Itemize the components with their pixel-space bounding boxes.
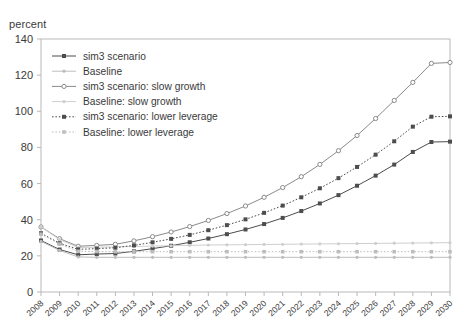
data-point-marker xyxy=(113,246,117,250)
data-point-marker xyxy=(411,150,415,154)
x-tick-label: 2023 xyxy=(303,298,324,318)
data-point-marker xyxy=(188,256,191,259)
data-point-marker xyxy=(281,185,285,189)
data-point-marker xyxy=(337,256,340,259)
data-point-marker xyxy=(429,140,433,144)
data-point-marker xyxy=(336,176,340,180)
legend-item-4[interactable]: Baseline: slow growth xyxy=(52,96,182,107)
data-point-marker xyxy=(58,249,61,252)
y-tick-label: 120 xyxy=(15,69,33,81)
data-point-marker xyxy=(336,149,340,153)
x-tick-label: 2024 xyxy=(322,298,343,318)
data-point-marker xyxy=(62,70,65,73)
x-tick-label: 2012 xyxy=(99,298,120,318)
data-point-marker xyxy=(188,250,192,254)
legend-item-3[interactable]: sim3 scenario: slow growth xyxy=(52,81,205,92)
data-point-marker xyxy=(318,242,321,245)
line-chart-plot: 020406080100120140 200820092010201120122… xyxy=(0,0,464,332)
x-tick-label: 2021 xyxy=(266,298,287,318)
data-point-marker xyxy=(188,244,191,247)
data-point-marker xyxy=(262,243,265,246)
chart-legend: sim3 scenarioBaselinesim3 scenario: slow… xyxy=(52,51,218,138)
data-point-marker xyxy=(448,140,452,144)
data-point-marker xyxy=(411,256,414,259)
legend-item-5[interactable]: sim3 scenario: lower leverage xyxy=(52,111,218,122)
x-tick-label: 2013 xyxy=(117,298,138,318)
data-point-marker xyxy=(374,116,378,120)
data-point-marker xyxy=(76,250,80,254)
x-tick-label: 2025 xyxy=(340,298,361,318)
x-tick-label: 2016 xyxy=(173,298,194,318)
data-point-marker xyxy=(95,256,98,259)
x-tick-label: 2030 xyxy=(433,298,454,318)
data-point-marker xyxy=(318,250,322,254)
legend-label: Baseline: slow growth xyxy=(83,96,182,107)
x-tick-label: 2014 xyxy=(136,298,157,318)
legend-item-2[interactable]: Baseline xyxy=(52,66,122,77)
data-point-marker xyxy=(318,186,322,190)
data-point-marker xyxy=(39,232,43,236)
data-point-marker xyxy=(58,238,61,241)
data-point-marker xyxy=(281,243,284,246)
y-tick-label: 0 xyxy=(27,286,33,298)
data-point-marker xyxy=(95,250,99,254)
x-tick-label: 2015 xyxy=(155,298,176,318)
x-tick-label: 2029 xyxy=(415,298,436,318)
legend-item-6[interactable]: Baseline: lower leverage xyxy=(52,127,194,138)
data-point-marker xyxy=(448,60,452,64)
data-point-marker xyxy=(355,256,358,259)
data-point-marker xyxy=(62,54,66,58)
data-point-marker xyxy=(207,243,210,246)
data-point-marker xyxy=(281,204,285,208)
data-point-marker xyxy=(430,256,433,259)
y-tick-label: 20 xyxy=(21,250,33,262)
data-point-marker xyxy=(62,100,65,103)
data-point-marker xyxy=(374,256,377,259)
series-line xyxy=(41,142,450,255)
x-tick-label: 2022 xyxy=(285,298,306,318)
data-point-marker xyxy=(318,162,322,166)
x-tick-label: 2011 xyxy=(81,298,102,318)
data-point-marker xyxy=(170,244,173,247)
data-point-marker xyxy=(355,242,358,245)
data-point-marker xyxy=(299,175,303,179)
data-point-marker xyxy=(393,256,396,259)
data-point-marker xyxy=(262,195,266,199)
data-point-marker xyxy=(114,256,117,259)
chart-container: percent 020406080100120140 2008200920102… xyxy=(0,0,464,332)
data-point-marker xyxy=(393,242,396,245)
data-point-marker xyxy=(374,250,378,254)
data-point-marker xyxy=(58,242,62,246)
y-tick-label: 60 xyxy=(21,178,33,190)
data-point-marker xyxy=(429,61,433,65)
data-point-marker xyxy=(336,193,340,197)
data-point-marker xyxy=(448,241,451,244)
legend-label: Baseline xyxy=(83,66,122,77)
legend-label: sim3 scenario: slow growth xyxy=(83,81,205,92)
data-point-marker xyxy=(188,240,192,244)
data-point-marker xyxy=(114,250,118,254)
data-point-marker xyxy=(411,250,415,254)
data-point-marker xyxy=(188,233,192,237)
legend-label: sim3 scenario xyxy=(83,51,146,62)
data-point-marker xyxy=(169,250,173,254)
x-tick-label: 2020 xyxy=(248,298,269,318)
series-baseline xyxy=(39,240,451,259)
x-tick-label: 2028 xyxy=(396,298,417,318)
data-point-marker xyxy=(62,115,66,119)
data-point-marker xyxy=(374,174,378,178)
data-point-marker xyxy=(150,235,154,239)
data-point-marker xyxy=(337,250,341,254)
data-point-marker xyxy=(169,237,173,241)
data-point-marker xyxy=(262,211,266,215)
data-point-marker xyxy=(374,153,378,157)
data-point-marker xyxy=(132,243,136,247)
legend-label: sim3 scenario: lower leverage xyxy=(83,111,218,122)
data-point-marker xyxy=(299,195,303,199)
data-point-marker xyxy=(151,256,154,259)
data-point-marker xyxy=(151,250,155,254)
legend-item-1[interactable]: sim3 scenario xyxy=(52,51,146,62)
data-point-marker xyxy=(170,256,173,259)
data-point-marker xyxy=(77,255,80,258)
data-point-marker xyxy=(62,130,66,134)
